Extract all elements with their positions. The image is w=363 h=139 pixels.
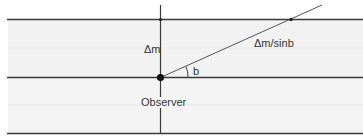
observer-dot: [157, 74, 164, 81]
top-intersection-dot: [159, 18, 162, 21]
slant-distance-label: Δm/sinb: [254, 38, 294, 49]
angle-b-label: b: [193, 66, 199, 77]
observer-label: Observer: [140, 97, 187, 108]
diagram-canvas: Δm Δm/sinb b Observer: [0, 0, 363, 139]
slant-intersection-dot: [289, 18, 293, 22]
delta-m-label: Δm: [144, 44, 161, 55]
diagram-svg: [0, 0, 363, 139]
